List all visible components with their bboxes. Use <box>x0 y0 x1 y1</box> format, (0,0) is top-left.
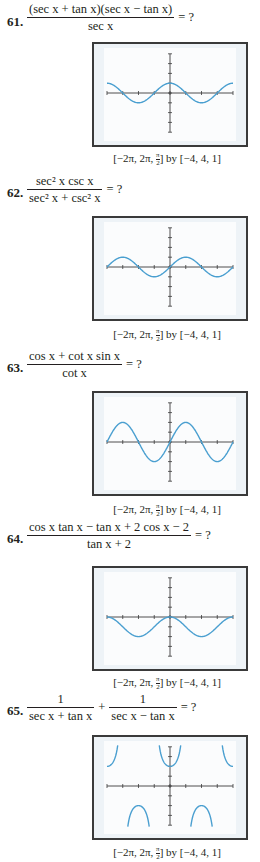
caption-open: [−2π, 2π, <box>113 676 156 688</box>
numerator: cos x tan x − tan x + 2 cos x − 2 <box>27 520 191 536</box>
numerator: sec² x csc x <box>27 174 102 190</box>
plot-svg <box>94 568 246 669</box>
fraction-term-2: 1 sec x − tan x <box>109 692 176 723</box>
caption-close: ] by [−4, 4, 1] <box>160 152 221 164</box>
plus-sign: + <box>98 700 105 715</box>
fraction: sec² x csc x sec² x + csc² x <box>27 174 102 205</box>
problem-number: 62. <box>7 185 23 201</box>
window-caption: [−2π, 2π, π2] by [−4, 4, 1] <box>111 328 223 343</box>
fraction: (sec x + tan x)(sec x − tan x) sec x <box>27 2 174 33</box>
caption-close: ] by [−4, 4, 1] <box>160 503 221 515</box>
denominator: cot x <box>27 365 122 380</box>
window-caption: [−2π, 2π, π2] by [−4, 4, 1] <box>111 676 223 691</box>
fraction: cos x tan x − tan x + 2 cos x − 2 tan x … <box>27 520 191 551</box>
graph-window <box>92 216 248 321</box>
expression: cos x + cot x sin x cot x = ? <box>27 349 146 380</box>
graph-window <box>92 735 248 840</box>
plot-svg <box>94 393 246 494</box>
plot-svg <box>94 44 246 145</box>
caption-open: [−2π, 2π, <box>113 328 156 340</box>
numerator: 1 <box>109 692 176 708</box>
window-caption: [−2π, 2π, π2] by [−4, 4, 1] <box>111 503 223 518</box>
caption-close: ] by [−4, 4, 1] <box>160 846 221 858</box>
window-caption: [−2π, 2π, π2] by [−4, 4, 1] <box>111 152 223 167</box>
denominator: sec x <box>27 18 174 33</box>
caption-open: [−2π, 2π, <box>113 152 156 164</box>
caption-close: ] by [−4, 4, 1] <box>160 676 221 688</box>
expression: cos x tan x − tan x + 2 cos x − 2 tan x … <box>27 520 215 551</box>
graph-window <box>92 566 248 671</box>
expression: (sec x + tan x)(sec x − tan x) sec x = ? <box>27 2 198 33</box>
fraction: cos x + cot x sin x cot x <box>27 349 122 380</box>
problem-number: 64. <box>7 531 23 547</box>
problem-number: 63. <box>7 360 23 376</box>
graph-window <box>92 42 248 147</box>
caption-open: [−2π, 2π, <box>113 846 156 858</box>
problem-number: 65. <box>7 703 23 719</box>
caption-open: [−2π, 2π, <box>113 503 156 515</box>
numerator: (sec x + tan x)(sec x − tan x) <box>27 2 174 18</box>
numerator: 1 <box>27 692 94 708</box>
window-caption: [−2π, 2π, π2] by [−4, 4, 1] <box>111 846 223 861</box>
equals-question: = ? <box>195 528 211 543</box>
expression: 1 sec x + tan x + 1 sec x − tan x = ? <box>27 692 200 723</box>
expression: sec² x csc x sec² x + csc² x = ? <box>27 174 126 205</box>
denominator: tan x + 2 <box>27 536 191 551</box>
equals-question: = ? <box>126 357 142 372</box>
equals-question: = ? <box>178 10 194 25</box>
caption-close: ] by [−4, 4, 1] <box>160 328 221 340</box>
graph-window <box>92 391 248 496</box>
problem-number: 61. <box>7 14 23 30</box>
denominator: sec x − tan x <box>109 708 176 723</box>
denominator: sec² x + csc² x <box>27 190 102 205</box>
equals-question: = ? <box>106 182 122 197</box>
denominator: sec x + tan x <box>27 708 94 723</box>
fraction-term-1: 1 sec x + tan x <box>27 692 94 723</box>
plot-svg <box>94 218 246 319</box>
numerator: cos x + cot x sin x <box>27 349 122 365</box>
plot-svg <box>94 737 246 838</box>
equals-question: = ? <box>181 700 197 715</box>
